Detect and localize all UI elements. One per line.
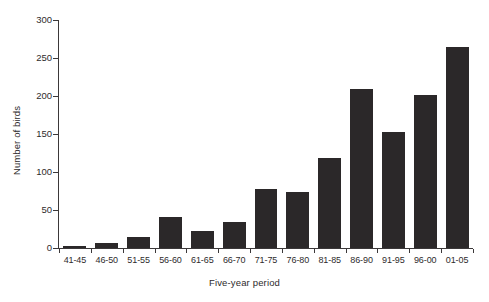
x-axis-tick-label: 96-00 <box>409 255 441 265</box>
x-axis-tick-label: 41-45 <box>59 255 91 265</box>
bar <box>350 89 373 248</box>
x-axis-tick-mark <box>441 249 442 253</box>
bar <box>286 192 309 248</box>
y-axis-tick-label: 300 <box>26 15 52 25</box>
x-axis-tick-mark <box>186 249 187 253</box>
x-axis-tick-mark <box>473 249 474 253</box>
y-axis-tick-mark <box>53 20 58 21</box>
bar <box>446 47 469 248</box>
y-axis-tick-mark <box>53 210 58 211</box>
x-axis-tick-mark <box>346 249 347 253</box>
y-axis-tick-mark <box>53 96 58 97</box>
bar <box>63 246 86 248</box>
x-axis-tick-mark <box>218 249 219 253</box>
y-axis-tick-labels: 050100150200250300 <box>26 0 52 302</box>
y-axis-tick-label: 0 <box>26 243 52 253</box>
x-axis-tick-label: 76-80 <box>282 255 314 265</box>
x-axis-tick-mark <box>250 249 251 253</box>
y-axis-tick-mark <box>53 172 58 173</box>
y-axis-tick-label: 250 <box>26 53 52 63</box>
bar <box>255 189 278 248</box>
x-axis-tick-label: 56-60 <box>155 255 187 265</box>
x-axis-tick-label: 01-05 <box>441 255 473 265</box>
x-axis-line <box>58 248 473 249</box>
y-axis-tick-mark <box>53 134 58 135</box>
x-axis-tick-label: 71-75 <box>250 255 282 265</box>
x-axis-tick-label: 61-65 <box>186 255 218 265</box>
x-axis-tick-label: 66-70 <box>218 255 250 265</box>
y-axis-tick-label: 200 <box>26 91 52 101</box>
x-axis-tick-mark <box>282 249 283 253</box>
x-axis-tick-label: 51-55 <box>123 255 155 265</box>
bar <box>127 237 150 248</box>
y-axis-tick-label: 50 <box>26 205 52 215</box>
x-axis-title: Five-year period <box>0 277 489 288</box>
bar <box>95 243 118 248</box>
bar <box>223 222 246 248</box>
bar <box>414 95 437 248</box>
x-axis-tick-mark <box>91 249 92 253</box>
x-axis-tick-label: 46-50 <box>91 255 123 265</box>
x-axis-tick-mark <box>314 249 315 253</box>
bar <box>318 158 341 248</box>
y-axis-tick-mark <box>53 58 58 59</box>
y-axis-tick-mark <box>53 248 58 249</box>
bar <box>159 217 182 248</box>
bar-chart-figure: Number of birds 050100150200250300 Five-… <box>0 0 489 302</box>
x-axis-tick-label: 86-90 <box>346 255 378 265</box>
plot-area <box>59 20 473 248</box>
x-axis-tick-mark <box>155 249 156 253</box>
x-axis-tick-label: 81-85 <box>314 255 346 265</box>
x-axis-tick-mark <box>409 249 410 253</box>
x-axis-tick-mark <box>59 249 60 253</box>
y-axis-tick-label: 150 <box>26 129 52 139</box>
x-axis-tick-mark <box>123 249 124 253</box>
x-axis-tick-mark <box>377 249 378 253</box>
y-axis-tick-label: 100 <box>26 167 52 177</box>
bar <box>382 132 405 248</box>
bar <box>191 231 214 248</box>
y-axis-title: Number of birds <box>8 88 24 192</box>
x-axis-tick-label: 91-95 <box>377 255 409 265</box>
